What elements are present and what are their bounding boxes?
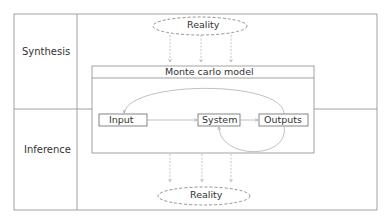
outputs-node-label: Outputs <box>264 114 302 125</box>
top-arrows <box>170 35 231 62</box>
system-node-label: System <box>202 114 237 125</box>
outer-table <box>14 14 377 210</box>
diagram-canvas <box>0 0 389 220</box>
input-node-label: Input <box>109 114 134 125</box>
row-label-inference: Inference <box>24 144 71 155</box>
row-label-synthesis: Synthesis <box>22 46 70 57</box>
model-title: Monte carlo model <box>165 66 254 77</box>
bottom-arrows <box>170 154 231 182</box>
reality-bottom-label: Reality <box>190 189 222 200</box>
reality-top-label: Reality <box>187 19 219 30</box>
